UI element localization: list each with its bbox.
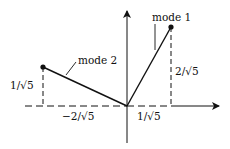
mode-diagram: mode 1 mode 2 2/√5 1/√5 1/√5 −2/√5 bbox=[0, 0, 230, 149]
mode2-leader bbox=[66, 62, 76, 75]
mode2-x-label: −2/√5 bbox=[62, 110, 94, 122]
mode1-label: mode 1 bbox=[152, 11, 191, 23]
mode2-label: mode 2 bbox=[78, 54, 117, 66]
mode1-y-label: 2/√5 bbox=[175, 65, 199, 77]
mode2-y-label: 1/√5 bbox=[10, 79, 34, 91]
mode2-vector bbox=[43, 67, 127, 106]
mode1-vector bbox=[127, 27, 171, 106]
mode1-x-label: 1/√5 bbox=[137, 110, 161, 122]
mode1-point bbox=[168, 24, 173, 29]
mode2-point bbox=[40, 64, 45, 69]
